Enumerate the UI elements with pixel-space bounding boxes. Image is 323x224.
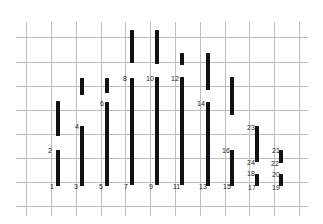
point-label: 22 [271, 160, 279, 167]
point-label: 15 [223, 183, 231, 190]
segment-bar [230, 150, 234, 186]
segment-bar [255, 126, 259, 162]
point-label: 4 [75, 123, 79, 130]
point-label: 10 [146, 75, 154, 82]
segment-bar [180, 77, 184, 185]
segment-bar [155, 30, 159, 64]
point-label: 6 [100, 100, 104, 107]
segment-bar [80, 126, 84, 186]
point-label: 13 [199, 183, 207, 190]
grid-line-horizontal [16, 62, 308, 63]
point-label: 12 [171, 75, 179, 82]
point-label: 21 [272, 147, 280, 154]
point-label: 5 [99, 183, 103, 190]
point-label: 17 [248, 184, 256, 191]
point-label: 3 [74, 183, 78, 190]
point-label: 9 [149, 183, 153, 190]
point-label: 19 [272, 184, 280, 191]
segment-bar [130, 78, 134, 185]
segment-bar [56, 101, 60, 136]
segment-bar [155, 77, 159, 185]
grid-line-horizontal [16, 37, 308, 38]
segment-bar [180, 53, 184, 65]
grid-line-vertical [26, 22, 27, 216]
point-label: 14 [197, 100, 205, 107]
point-label: 20 [272, 171, 280, 178]
segment-bar [230, 77, 234, 115]
point-label: 16 [222, 147, 230, 154]
segment-bar [56, 150, 60, 186]
segment-bar [80, 78, 84, 95]
segment-bar [105, 102, 109, 186]
point-label: 8 [123, 75, 127, 82]
grid-line-horizontal [16, 206, 308, 207]
segment-bar [206, 102, 210, 186]
point-label: 7 [124, 183, 128, 190]
segment-bar [206, 53, 210, 90]
point-label: 18 [247, 170, 255, 177]
segment-grid-diagram: 123456789101112131415161718242319202221 [0, 0, 323, 224]
point-label: 2 [48, 147, 52, 154]
grid-line-horizontal [16, 86, 308, 87]
point-label: 23 [247, 124, 255, 131]
point-label: 24 [247, 159, 255, 166]
segment-bar [130, 30, 134, 63]
segment-bar [105, 78, 109, 93]
grid-line-vertical [299, 22, 300, 216]
point-label: 11 [173, 183, 180, 190]
point-label: 1 [50, 183, 54, 190]
